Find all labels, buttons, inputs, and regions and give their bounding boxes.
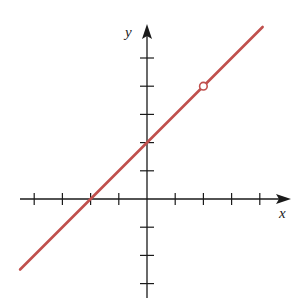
graph-svg: x y <box>0 0 303 306</box>
x-axis-label: x <box>278 205 286 221</box>
graph-figure: x y <box>0 0 303 306</box>
y-axis-label: y <box>123 24 132 40</box>
function-line <box>20 27 263 270</box>
open-circle-point <box>200 82 208 90</box>
axes <box>20 24 291 298</box>
open-circle-icon <box>200 82 208 90</box>
series-line <box>20 27 263 270</box>
